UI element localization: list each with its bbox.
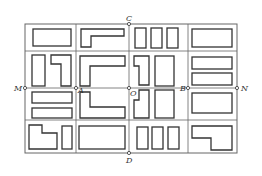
building-l-shape xyxy=(80,92,125,118)
building xyxy=(33,29,71,46)
building xyxy=(152,127,163,149)
point-b xyxy=(186,86,189,89)
building-l-shape xyxy=(192,126,232,150)
building-l-shape xyxy=(80,56,125,86)
building xyxy=(155,56,174,86)
building xyxy=(135,28,146,48)
building xyxy=(192,57,232,69)
label-m: M xyxy=(13,84,23,93)
building xyxy=(79,126,125,149)
building xyxy=(192,93,232,113)
building xyxy=(167,28,178,48)
building xyxy=(32,55,45,86)
building xyxy=(32,108,72,118)
label-a: A xyxy=(77,86,84,95)
building-l-shape xyxy=(51,55,71,86)
street-grid-diagram: C D M N A B O xyxy=(0,0,262,176)
point-n xyxy=(235,86,238,89)
building xyxy=(155,90,174,118)
building-l-shape xyxy=(134,56,149,85)
point-d xyxy=(127,151,130,154)
label-c: C xyxy=(126,14,132,23)
building xyxy=(192,29,232,47)
label-n: N xyxy=(240,84,249,93)
building xyxy=(62,126,72,149)
label-o: O xyxy=(130,89,137,98)
building xyxy=(168,127,179,149)
building xyxy=(192,73,232,85)
building-l-shape xyxy=(81,29,124,47)
point-m xyxy=(23,86,26,89)
label-b: B xyxy=(179,84,186,93)
building xyxy=(32,92,72,103)
building-l-shape xyxy=(29,125,57,149)
building xyxy=(137,127,148,149)
building xyxy=(151,28,162,48)
label-d: D xyxy=(125,156,133,165)
